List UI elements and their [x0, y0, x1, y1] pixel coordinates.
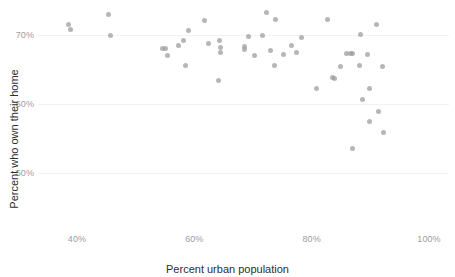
data-point: [360, 97, 365, 102]
data-point: [186, 28, 191, 33]
data-point: [350, 51, 355, 56]
data-point: [202, 18, 207, 23]
x-axis-tick-label: 100%: [417, 234, 440, 244]
data-point: [376, 109, 381, 114]
data-point: [217, 38, 222, 43]
data-point: [374, 22, 379, 27]
data-point: [289, 43, 294, 48]
data-point: [381, 130, 386, 135]
data-point: [268, 48, 273, 53]
data-point: [380, 64, 385, 69]
x-axis-tick-label: 80%: [302, 234, 320, 244]
y-axis-tick-label: 70%: [0, 30, 34, 40]
data-point: [350, 146, 355, 151]
data-point: [272, 63, 277, 68]
data-point: [294, 50, 299, 55]
x-axis-tick-label: 40%: [68, 234, 86, 244]
data-point: [357, 63, 362, 68]
data-point: [183, 63, 188, 68]
data-point: [264, 10, 269, 15]
data-point: [163, 46, 168, 51]
data-point: [260, 33, 265, 38]
data-point: [332, 76, 337, 81]
gridline-horizontal: [38, 104, 449, 105]
data-point: [68, 27, 73, 32]
data-point: [218, 50, 223, 55]
data-point: [246, 34, 251, 39]
data-point: [281, 52, 286, 57]
data-point: [338, 64, 343, 69]
data-point: [181, 38, 186, 43]
data-point: [176, 43, 181, 48]
data-point: [108, 33, 113, 38]
gridline-horizontal: [38, 173, 449, 174]
data-point: [273, 17, 278, 22]
gridline-horizontal: [38, 35, 449, 36]
plot-area: 50%60%70%40%60%80%100%: [0, 0, 455, 277]
data-point: [206, 41, 211, 46]
data-point: [325, 17, 330, 22]
data-point: [358, 32, 363, 37]
data-point: [314, 86, 319, 91]
scatter-chart: 50%60%70%40%60%80%100% Percent urban pop…: [0, 0, 455, 277]
data-point: [242, 47, 247, 52]
x-axis-title: Percent urban population: [0, 263, 455, 275]
data-point: [165, 53, 170, 58]
y-axis-title: Percent who own their home: [8, 69, 20, 208]
data-point: [299, 35, 304, 40]
data-point: [365, 52, 370, 57]
data-point: [216, 78, 221, 83]
data-point: [106, 12, 111, 17]
data-point: [367, 86, 372, 91]
data-point: [252, 53, 257, 58]
data-point: [367, 119, 372, 124]
x-axis-tick-label: 60%: [185, 234, 203, 244]
